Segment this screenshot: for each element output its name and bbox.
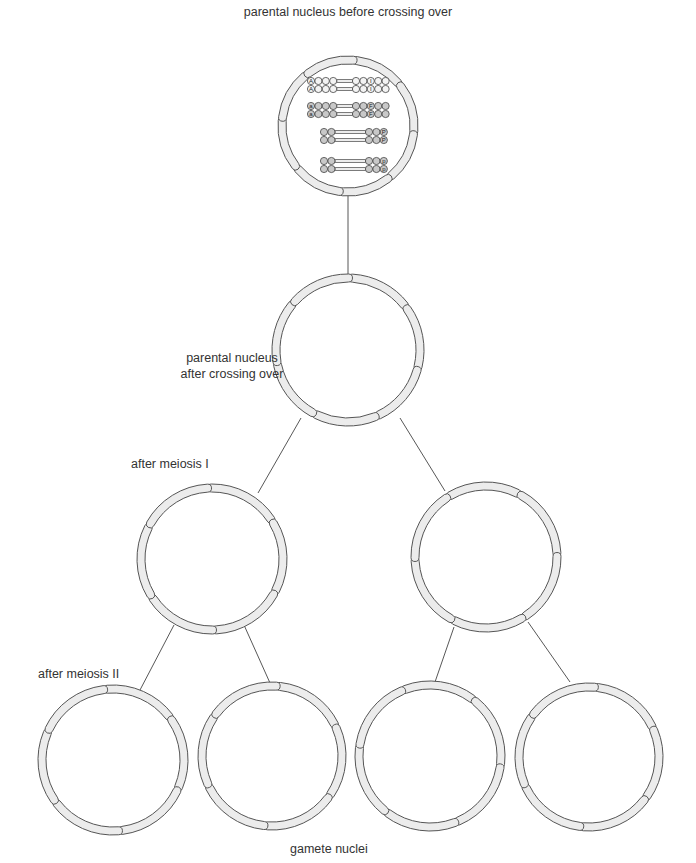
- membrane-segment: [387, 131, 417, 180]
- chromosome: p: [320, 165, 387, 172]
- link-after-to-m1-left: [258, 418, 301, 493]
- gene-bead: [375, 85, 382, 92]
- gene-bead: [328, 128, 335, 135]
- nucleus-gamete-1: [38, 685, 188, 835]
- gene-bead: [315, 77, 322, 84]
- label-after-meiosis-2: after meiosis II: [38, 667, 119, 681]
- gene-bead: [360, 77, 367, 84]
- membrane-segment: [45, 686, 108, 734]
- link-m1left-to-g2: [244, 625, 270, 683]
- gene-bead: [373, 157, 380, 164]
- membrane-segment: [517, 491, 561, 556]
- membrane-segment: [401, 681, 476, 703]
- gene-bead: [352, 77, 359, 84]
- allele-label: F: [369, 103, 373, 109]
- membrane-segment: [349, 274, 409, 309]
- label-parental-nucleus: parental nucleus: [186, 351, 278, 365]
- membrane-segment: [530, 683, 599, 718]
- gene-bead: [320, 136, 327, 143]
- link-m1right-to-g4: [528, 622, 570, 682]
- membrane-segment: [375, 366, 421, 419]
- chromosome: P: [320, 136, 387, 143]
- lineage-lines: [140, 196, 570, 690]
- allele-label: A: [309, 78, 313, 84]
- gene-bead: [365, 128, 372, 135]
- gene-bead: [320, 128, 327, 135]
- membrane-segment: [146, 484, 211, 528]
- membrane-segment: [396, 82, 418, 135]
- gene-bead: [330, 85, 337, 92]
- gene-bead: [352, 110, 359, 117]
- nucleus-meiosis1-right: [411, 482, 561, 632]
- gene-bead: [322, 102, 329, 109]
- gene-bead: [320, 157, 327, 164]
- gene-bead: [360, 102, 367, 109]
- gene-bead: [322, 110, 329, 117]
- link-m1right-to-g3: [435, 627, 454, 682]
- chromosome: aF: [307, 110, 389, 117]
- gene-bead: [382, 85, 389, 92]
- nucleus-gamete-2: [198, 682, 346, 830]
- membrane-segment: [264, 794, 332, 830]
- gene-bead: [315, 110, 322, 117]
- gene-bead: [315, 85, 322, 92]
- nucleus-gamete-4: [515, 683, 663, 831]
- gene-bead: [330, 110, 337, 117]
- membrane-segment: [137, 523, 155, 598]
- membrane-segment: [278, 117, 300, 170]
- centromere-bar: [335, 168, 365, 171]
- nucleus-parent-after: [272, 274, 424, 426]
- label-after-crossing-over: after crossing over: [181, 367, 284, 381]
- gene-bead: [360, 85, 367, 92]
- gene-bead: [373, 128, 380, 135]
- chromosome: P: [320, 128, 387, 135]
- centromere-bar: [335, 139, 365, 142]
- centromere-bar: [335, 131, 365, 134]
- gene-bead: [360, 110, 367, 117]
- membrane-segment: [279, 72, 309, 121]
- gene-bead: [328, 165, 335, 172]
- gene-bead: [382, 102, 389, 109]
- chromosome: aF: [307, 102, 389, 109]
- membrane-segment: [312, 411, 379, 426]
- gene-bead: [328, 157, 335, 164]
- membrane-segment: [149, 594, 217, 634]
- membrane-segment: [454, 764, 504, 825]
- membrane-segment: [446, 482, 521, 500]
- gene-bead: [328, 136, 335, 143]
- gene-bead: [330, 77, 337, 84]
- membrane-segment: [104, 685, 174, 721]
- membrane-segment: [53, 799, 123, 835]
- membrane-segment: [168, 716, 188, 791]
- gene-bead: [382, 77, 389, 84]
- gene-bead: [330, 102, 337, 109]
- gene-bead: [315, 102, 322, 109]
- membrane-segment: [411, 494, 451, 562]
- centromere-bar: [337, 105, 353, 108]
- nucleus-gamete-3: [355, 681, 505, 831]
- membrane-segment: [205, 783, 268, 829]
- link-m1left-to-g1: [140, 625, 174, 690]
- centromere-bar: [337, 113, 353, 116]
- allele-label: A: [309, 86, 313, 92]
- gene-bead: [375, 77, 382, 84]
- membrane-segment: [522, 783, 584, 830]
- nucleus-meiosis1-left: [137, 484, 287, 634]
- centromere-bar: [335, 160, 365, 163]
- membrane-segment: [384, 809, 459, 831]
- gene-bead: [352, 85, 359, 92]
- label-gamete-nuclei: gamete nuclei: [290, 842, 368, 856]
- gene-bead: [365, 165, 372, 172]
- membrane-segment: [450, 614, 525, 632]
- membrane-segment: [339, 174, 392, 196]
- membrane-segment: [594, 684, 656, 731]
- label-before-crossing-over: parental nucleus before crossing over: [244, 5, 452, 19]
- membrane-segment: [304, 56, 357, 78]
- membrane-segment: [471, 697, 505, 768]
- allele-label: P: [382, 137, 386, 143]
- gene-bead: [373, 136, 380, 143]
- gene-bead: [375, 102, 382, 109]
- membrane-segment: [411, 557, 455, 622]
- membrane-segment: [326, 724, 346, 798]
- membrane-segment: [355, 744, 389, 815]
